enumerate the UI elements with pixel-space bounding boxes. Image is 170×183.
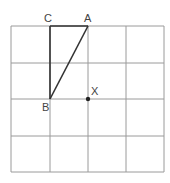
point-x-dot xyxy=(86,97,90,101)
point-label-a: A xyxy=(84,12,92,24)
point-label-b: B xyxy=(42,101,49,113)
point-label-c: C xyxy=(44,12,52,24)
grid-diagram: ABCX xyxy=(0,0,170,183)
point-label-x: X xyxy=(91,85,99,97)
